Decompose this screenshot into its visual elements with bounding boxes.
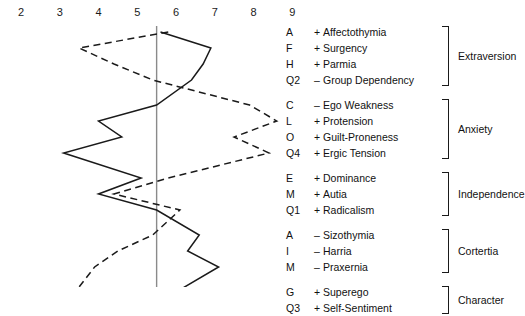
trait-row: M–Praxernia [286, 259, 524, 275]
trait-code: H [286, 56, 314, 72]
group-brace [442, 99, 449, 159]
trait-polarity-sign: – [314, 259, 323, 275]
factor-label: Anxiety [458, 123, 492, 135]
trait-code: M [286, 186, 314, 202]
factor-label: Extraversion [458, 50, 516, 62]
trait-polarity-sign: – [314, 243, 323, 259]
trait-code: F [286, 40, 314, 56]
trait-polarity-sign: + [314, 24, 323, 40]
trait-row: A–Sizothymia [286, 227, 524, 243]
trait-code: O [286, 129, 314, 145]
trait-code: Q2 [286, 72, 314, 88]
profile-line-solid [64, 32, 238, 287]
trait-name: Guilt-Proneness [323, 129, 524, 145]
trait-polarity-sign: + [314, 129, 323, 145]
trait-name: Group Dependency [323, 72, 524, 88]
group-brace [442, 172, 449, 216]
trait-legend: A+AffectothymiaF+SurgencyH+ParmiaQ2–Grou… [286, 24, 524, 316]
trait-polarity-sign: + [314, 113, 323, 129]
trait-polarity-sign: + [314, 186, 323, 202]
trait-group-extraversion: A+AffectothymiaF+SurgencyH+ParmiaQ2–Grou… [286, 24, 524, 88]
trait-polarity-sign: + [314, 40, 323, 56]
trait-name: Sizothymia [323, 227, 524, 243]
trait-polarity-sign: + [314, 56, 323, 72]
trait-code: Q3 [286, 300, 314, 316]
profile-line-dashed [60, 32, 277, 287]
trait-row: E+Dominance [286, 170, 524, 186]
trait-polarity-sign: + [314, 170, 323, 186]
group-brace [442, 229, 449, 273]
trait-code: I [286, 243, 314, 259]
trait-polarity-sign: – [314, 227, 323, 243]
trait-polarity-sign: + [314, 202, 323, 218]
trait-row: Q1+Radicalism [286, 202, 524, 218]
trait-code: C [286, 97, 314, 113]
trait-row: A+Affectothymia [286, 24, 524, 40]
trait-code: L [286, 113, 314, 129]
trait-group-character: G+SuperegoQ3+Self-SentimentCharacter [286, 284, 524, 316]
trait-code: M [286, 259, 314, 275]
trait-polarity-sign: + [314, 145, 323, 161]
group-brace [442, 26, 449, 86]
trait-code: Q1 [286, 202, 314, 218]
trait-name: Protension [323, 113, 524, 129]
trait-polarity-sign: + [314, 284, 323, 300]
group-brace [442, 286, 449, 314]
trait-polarity-sign: – [314, 72, 323, 88]
trait-group-cortertia: A–SizothymiaI–HarriaM–PraxerniaCortertia [286, 227, 524, 275]
trait-polarity-sign: + [314, 300, 323, 316]
factor-label: Cortertia [458, 245, 498, 257]
trait-name: Ego Weakness [323, 97, 524, 113]
factor-label: Character [458, 294, 504, 306]
trait-polarity-sign: – [314, 97, 323, 113]
trait-row: Q2–Group Dependency [286, 72, 524, 88]
trait-name: Affectothymia [323, 24, 524, 40]
trait-row: Q4+Ergic Tension [286, 145, 524, 161]
trait-name: Ergic Tension [323, 145, 524, 161]
trait-code: Q4 [286, 145, 314, 161]
trait-name: Praxernia [323, 259, 524, 275]
trait-row: C–Ego Weakness [286, 97, 524, 113]
trait-group-independence: E+DominanceM+AutiaQ1+RadicalismIndepende… [286, 170, 524, 218]
factor-label: Independence [458, 188, 525, 200]
trait-name: Dominance [323, 170, 524, 186]
trait-code: E [286, 170, 314, 186]
trait-group-anxiety: C–Ego WeaknessL+ProtensionO+Guilt-Pronen… [286, 97, 524, 161]
trait-code: A [286, 227, 314, 243]
trait-code: A [286, 24, 314, 40]
trait-name: Radicalism [323, 202, 524, 218]
trait-code: G [286, 284, 314, 300]
